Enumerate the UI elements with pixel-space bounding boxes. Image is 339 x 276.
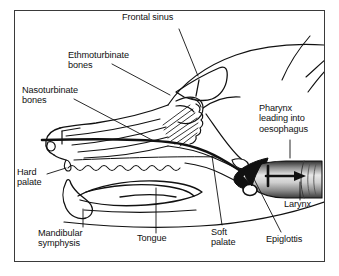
- ethmoturbinate-bones-shape: [176, 97, 203, 123]
- leader-frontal-sinus: [179, 29, 198, 76]
- hard-palate-line: [65, 160, 181, 171]
- label-soft-palate: Softpalate: [211, 227, 235, 248]
- label-ethmoturbinate-bones: Ethmoturbinatebones: [68, 50, 129, 71]
- label-hard-palate: Hardpalate: [17, 167, 41, 188]
- head-dorsal-outline: [168, 44, 324, 105]
- label-frontal-sinus: Frontal sinus: [122, 12, 173, 22]
- label-nasoturbinate-bones: Nasoturbinatebones: [22, 85, 78, 106]
- mandibular-symphysis-shape: [63, 180, 92, 219]
- label-tongue: Tongue: [137, 233, 167, 243]
- label-mandibular-symphysis: Mandibularsymphysis: [38, 228, 82, 249]
- leader-hard-palate: [47, 168, 66, 174]
- tongue-shape: [78, 181, 202, 206]
- label-pharynx-oesophagus: Pharynxleading intooesophagus: [259, 103, 308, 134]
- figure-canvas: Frontal sinus Ethmoturbinatebones Nasotu…: [0, 0, 339, 276]
- label-larynx: Larynx: [284, 199, 311, 209]
- leader-soft-palate: [212, 156, 222, 225]
- nostril-outline: [47, 128, 80, 160]
- label-epiglottis: Epiglottis: [266, 234, 302, 244]
